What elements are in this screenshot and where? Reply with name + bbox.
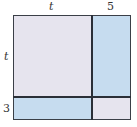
area-model-diagram: t 5 t 3 (0, 0, 137, 127)
vertical-divider (91, 15, 93, 120)
horizontal-divider (13, 96, 131, 98)
label-left-3: 3 (3, 103, 10, 114)
label-top-t: t (49, 1, 53, 12)
label-top-5: 5 (107, 1, 114, 12)
outer-border (13, 15, 131, 120)
label-left-t: t (4, 51, 8, 62)
